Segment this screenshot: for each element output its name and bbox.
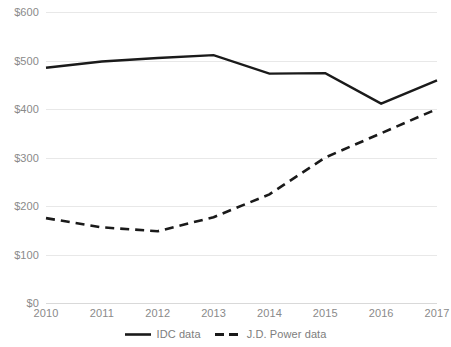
chart-legend: IDC data J.D. Power data — [0, 328, 451, 340]
legend-label-idc-data: IDC data — [157, 328, 201, 340]
legend-item-jd-power-data[interactable]: J.D. Power data — [215, 328, 327, 340]
x-axis-labels: 2010 2011 2012 2013 2014 2015 2016 2017 — [46, 307, 437, 327]
x-tick-2017: 2017 — [425, 307, 450, 319]
legend-item-idc-data[interactable]: IDC data — [125, 328, 201, 340]
x-tick-2010: 2010 — [34, 307, 59, 319]
legend-label-jd-power-data: J.D. Power data — [247, 328, 327, 340]
x-tick-2011: 2011 — [90, 307, 114, 319]
line-chart: $600 $500 $400 $300 $200 $100 $0 2010 20… — [0, 0, 451, 347]
x-tick-2014: 2014 — [257, 307, 282, 319]
x-tick-2015: 2015 — [313, 307, 338, 319]
x-tick-2012: 2012 — [145, 307, 170, 319]
solid-line-swatch-icon — [125, 329, 151, 340]
x-tick-2016: 2016 — [369, 307, 394, 319]
x-tick-2013: 2013 — [201, 307, 226, 319]
series-line-jd-power-data — [46, 109, 437, 231]
dashed-line-swatch-icon — [215, 329, 241, 340]
series-layer — [0, 0, 451, 347]
series-line-idc-data — [46, 55, 437, 104]
